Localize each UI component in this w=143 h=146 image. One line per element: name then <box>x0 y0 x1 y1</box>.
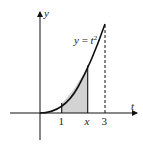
tick-label-1: 1 <box>59 115 65 127</box>
tick-label-x: x <box>84 115 90 127</box>
function-label: y = t2 <box>73 34 98 46</box>
tick-label-3: 3 <box>102 115 108 127</box>
t-axis-label: t <box>131 100 135 112</box>
integral-area-diagram: y t y = t2 1 x 3 <box>0 0 143 146</box>
shaded-region <box>62 66 88 114</box>
y-axis-label: y <box>43 7 49 19</box>
